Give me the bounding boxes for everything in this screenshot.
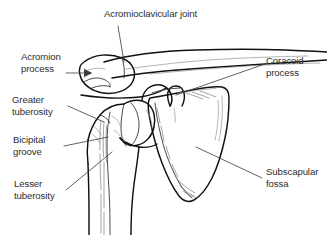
label-greater-tuberosity-line2: tuberosity <box>12 106 53 118</box>
humerus-shape <box>87 100 157 235</box>
label-greater-tuberosity-line1: Greater <box>12 94 44 106</box>
label-lesser-tuberosity-line2: tuberosity <box>14 190 55 202</box>
anatomy-figure: Acromioclavicular joint Acromion process… <box>0 0 327 235</box>
label-coracoid-process-line2: process <box>266 67 299 79</box>
label-subscapular-fossa-line1: Subscapular <box>266 166 318 178</box>
label-lesser-tuberosity-line1: Lesser <box>14 178 42 190</box>
leader-subscapular-fossa <box>196 147 262 178</box>
label-bicipital-groove-line2: groove <box>13 146 42 158</box>
scapula-body-shape <box>148 87 229 202</box>
label-coracoid-process-line1: Coracoid <box>266 55 304 67</box>
label-acromioclavicular-joint: Acromioclavicular joint <box>104 8 197 20</box>
label-acromion-process-line2: process <box>21 63 54 75</box>
label-acromion-process-line1: Acromion <box>21 51 61 63</box>
leader-greater-tuberosity <box>68 106 104 122</box>
leader-bicipital-groove <box>64 137 108 146</box>
label-subscapular-fossa-line2: fossa <box>266 178 288 190</box>
label-bicipital-groove-line1: Bicipital <box>13 134 45 146</box>
